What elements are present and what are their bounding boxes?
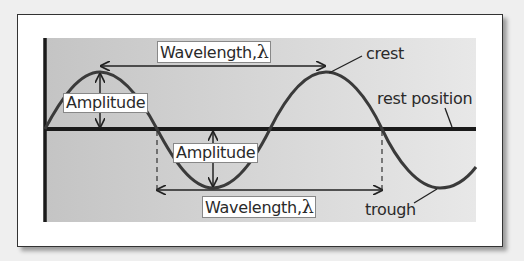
wavelength-text: Wavelength, — [160, 43, 257, 62]
lambda-symbol: λ — [302, 195, 314, 217]
lambda-symbol: λ — [257, 40, 269, 62]
wavelength-label-top: Wavelength,λ — [157, 41, 271, 63]
amplitude-label-top: Amplitude — [63, 93, 148, 113]
amplitude-text: Amplitude — [176, 143, 255, 162]
amplitude-label-bottom: Amplitude — [173, 143, 258, 163]
amplitude-text: Amplitude — [66, 93, 145, 112]
crest-label: crest — [366, 45, 404, 63]
wavelength-text: Wavelength, — [205, 198, 302, 217]
rest-position-label: rest position — [377, 90, 472, 108]
trough-label: trough — [365, 201, 416, 219]
wavelength-label-bottom: Wavelength,λ — [202, 196, 316, 218]
